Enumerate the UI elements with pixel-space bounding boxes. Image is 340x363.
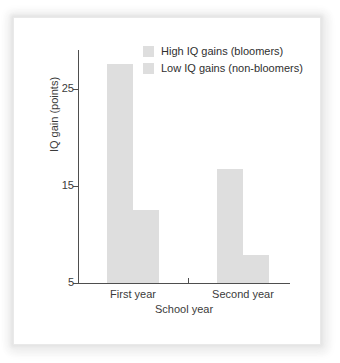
chart-figure: High IQ gains (bloomers) Low IQ gains (n… xyxy=(0,0,340,363)
bar xyxy=(217,169,243,283)
x-axis-title: School year xyxy=(78,303,290,316)
y-axis-line xyxy=(78,50,79,283)
bar xyxy=(243,255,269,283)
x-axis-tick-label: Second year xyxy=(193,288,293,301)
bar xyxy=(107,64,133,283)
x-axis-group-separator-tick xyxy=(188,278,189,284)
y-axis-title: IQ gain (points) xyxy=(48,55,61,175)
x-axis-tick-label: First year xyxy=(83,288,183,301)
y-axis-tick-label: 25 xyxy=(62,82,74,95)
x-axis-line xyxy=(78,283,290,284)
bar xyxy=(133,210,159,283)
plot-area: 51525 First yearSecond year xyxy=(78,50,290,283)
y-axis-tick-label: 5 xyxy=(68,276,74,289)
y-axis-tick-label: 15 xyxy=(62,179,74,192)
